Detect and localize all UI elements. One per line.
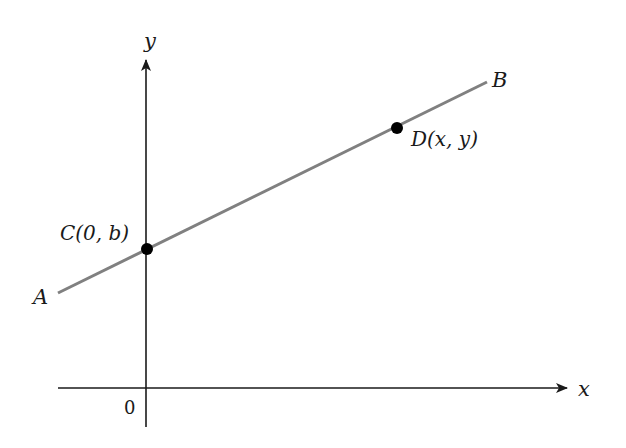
line-end-label: B <box>491 68 507 92</box>
y-axis-label: y <box>143 29 157 53</box>
x-axis-label: x <box>578 377 590 401</box>
point-c-label: C(0, b) <box>60 221 129 245</box>
line-ab <box>58 82 487 293</box>
coordinate-diagram: y x 0 A B C(0, b) D(x, y) <box>0 0 626 448</box>
origin-label: 0 <box>124 397 135 418</box>
point-d-label: D(x, y) <box>410 127 478 151</box>
line-start-label: A <box>31 285 48 309</box>
point-c-dot <box>141 243 153 255</box>
point-d-dot <box>391 122 403 134</box>
